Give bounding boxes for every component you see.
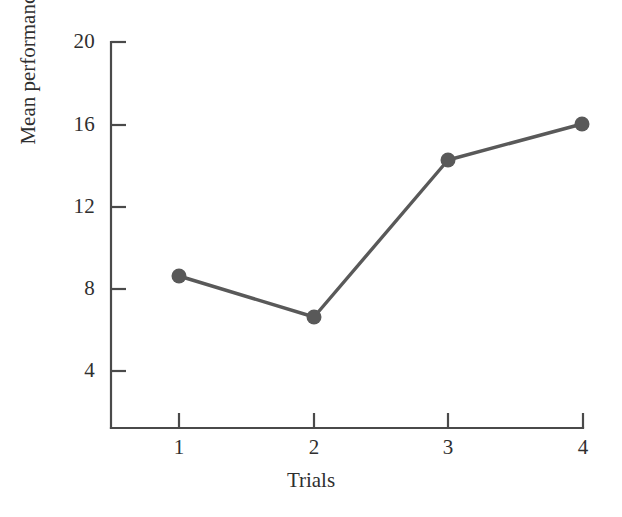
chart-figure: 20 16 12 8 4 1 2 3 4 Mean performance Tr… — [0, 0, 622, 517]
y-tick-label-16: 16 — [47, 114, 95, 135]
y-tick-label-20: 20 — [47, 31, 95, 52]
data-point-trial-3 — [441, 153, 456, 168]
y-axis-title: Mean performance — [11, 0, 45, 165]
data-point-trial-1 — [172, 269, 187, 284]
x-axis-title: Trials — [0, 470, 622, 491]
x-tick-label-1: 1 — [159, 437, 199, 458]
x-tick-label-4: 4 — [563, 437, 603, 458]
x-tick-label-3: 3 — [428, 437, 468, 458]
y-tick-label-8: 8 — [47, 278, 95, 299]
data-point-trial-4 — [575, 117, 590, 132]
y-tick-label-12: 12 — [47, 196, 95, 217]
y-tick-label-4: 4 — [47, 360, 95, 381]
series-line-mean-performance — [179, 124, 582, 317]
x-tick-label-2: 2 — [294, 437, 334, 458]
data-point-trial-2 — [307, 310, 322, 325]
